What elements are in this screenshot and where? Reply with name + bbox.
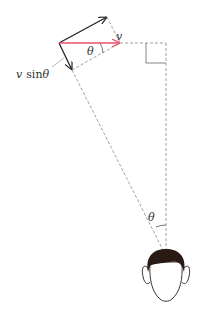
right-angle-marker	[146, 43, 166, 63]
theta-label-top: θ	[87, 46, 94, 57]
theta-arc-top	[100, 43, 103, 53]
perpendicular-component-arrow	[59, 43, 72, 69]
dashed-parallelogram-bottom	[72, 43, 120, 70]
v-sin-theta-fn: sin	[26, 68, 42, 81]
theta-arc-bottom	[156, 225, 166, 227]
theta-label-bottom: θ	[148, 212, 155, 223]
velocity-label: v	[116, 31, 122, 42]
parallel-component-arrow	[59, 18, 106, 44]
face	[150, 262, 182, 301]
dashed-line-of-sight	[72, 70, 164, 252]
v-sin-theta-var: v	[16, 68, 22, 81]
observer-head	[142, 249, 189, 301]
diagram-canvas: v θ θ v sinθ	[0, 0, 202, 310]
label-leader-line	[52, 58, 64, 67]
v-sin-theta-angle: θ	[42, 68, 49, 81]
v-sin-theta-label: v sinθ	[16, 64, 49, 82]
diagram-svg	[0, 0, 202, 310]
